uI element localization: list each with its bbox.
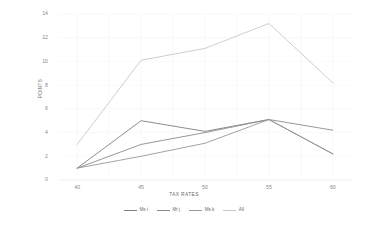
legend-label: All [239, 208, 244, 213]
chart-legend: Ms iMr jMs kAll [0, 208, 368, 213]
legend-item[interactable]: Mr j [157, 208, 180, 213]
x-tick-label: 55 [254, 185, 284, 190]
legend-swatch-icon [124, 210, 137, 211]
legend-item[interactable]: Ms i [124, 208, 148, 213]
x-tick-label: 40 [62, 185, 92, 190]
x-tick-label: 60 [318, 185, 348, 190]
legend-swatch-icon [157, 210, 170, 211]
legend-swatch-icon [189, 210, 202, 211]
legend-item[interactable]: Ms k [189, 208, 214, 213]
legend-label: Mr j [172, 208, 180, 213]
legend-item[interactable]: All [223, 208, 244, 213]
legend-label: Ms i [140, 208, 148, 213]
legend-swatch-icon [223, 210, 236, 211]
x-tick-label: 50 [190, 185, 220, 190]
line-chart: 02468101214 POINTS 4045505560 TAX RATES … [0, 0, 368, 228]
x-axis-title: TAX RATES [0, 192, 368, 197]
legend-label: Ms k [205, 208, 215, 213]
x-tick-label: 45 [126, 185, 156, 190]
